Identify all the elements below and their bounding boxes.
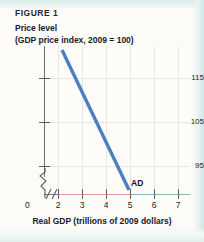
figure-container: FIGURE 1 Price level (GDP price index, 2…: [0, 0, 204, 242]
ad-curve: [0, 0, 204, 242]
plot-area: 115 105 95 2 3 4 5 6 7 0 AD: [0, 0, 204, 242]
ad-curve-label: AD: [131, 178, 144, 188]
x-axis-title: Real GDP (trillions of 2009 dollars): [0, 216, 204, 226]
